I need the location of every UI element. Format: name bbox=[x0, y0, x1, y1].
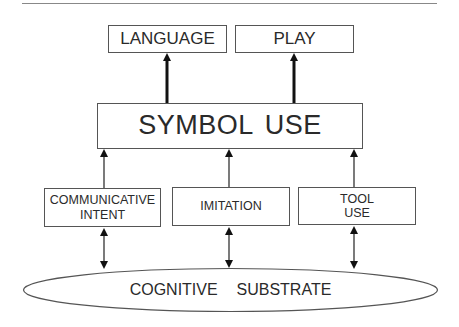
node-play-label: PLAY bbox=[273, 29, 315, 49]
node-tool-use: TOOL USE bbox=[298, 187, 416, 225]
node-communicative-intent: COMMUNICATIVE INTENT bbox=[44, 188, 161, 227]
node-tool-use-label: TOOL USE bbox=[339, 192, 375, 221]
node-cognitive-substrate-label: COGNITIVE SUBSTRATE bbox=[130, 281, 332, 299]
node-language-label: LANGUAGE bbox=[120, 29, 214, 49]
node-cognitive-substrate: COGNITIVE SUBSTRATE bbox=[23, 268, 438, 311]
node-imitation: IMITATION bbox=[172, 187, 290, 226]
node-symbol-use-label: SYMBOL USE bbox=[138, 110, 322, 141]
node-imitation-label: IMITATION bbox=[200, 199, 261, 213]
node-play: PLAY bbox=[235, 25, 354, 53]
node-symbol-use: SYMBOL USE bbox=[97, 103, 363, 149]
node-communicative-intent-label: COMMUNICATIVE INTENT bbox=[49, 193, 156, 222]
node-language: LANGUAGE bbox=[108, 25, 227, 53]
